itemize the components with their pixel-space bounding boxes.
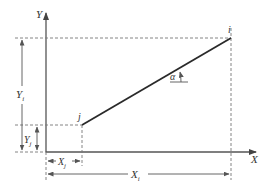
xj-label: Xj [57,156,66,170]
yi-label: Yi [16,88,24,103]
y-axis-label: Y [36,8,44,20]
alpha-label: α [170,71,176,82]
yj-label-sub: j [29,140,32,148]
angle-alpha-indicator: α [170,71,188,82]
projection-lines [15,28,231,180]
member-line-j-to-i [82,38,231,125]
xi-label-sub: i [138,175,140,183]
point-i-label: i [228,24,231,35]
xj-label-sub: j [63,162,66,170]
diagram-canvas: α Y X i j Yi Yj Xj Xi [0,0,271,188]
dimension-arrows [22,40,229,174]
point-j-label: j [76,111,81,122]
yi-label-sub: i [22,95,24,103]
x-axis-label: X [250,153,259,165]
axes [46,13,256,152]
labels: Y X i j Yi Yj Xj Xi [16,8,259,183]
alpha-arc [180,72,181,82]
yj-label: Yj [24,134,32,148]
xi-label: Xi [130,168,140,183]
